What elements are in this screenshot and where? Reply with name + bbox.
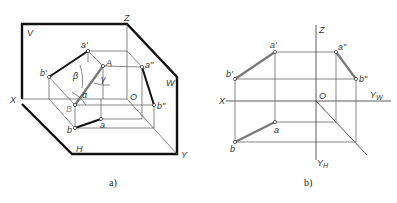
beta-arc xyxy=(80,65,83,88)
label-a: a xyxy=(274,125,279,135)
figure-b: Z X O YW YH a' a" b' b" a b b) xyxy=(218,25,391,189)
label-A: A xyxy=(105,58,112,68)
label-a-dprime: a" xyxy=(145,60,154,70)
segment-ab xyxy=(235,122,275,142)
label-O: O xyxy=(319,91,326,101)
projection-diagram: V Z W X O H Y a' b' A a" B b" a b β γ α … xyxy=(0,0,397,203)
label-b: b xyxy=(67,125,72,135)
label-W: W xyxy=(166,78,176,88)
label-b-dprime: b" xyxy=(359,74,368,84)
label-b: b xyxy=(230,144,235,154)
label-X: X xyxy=(218,96,226,106)
label-H: H xyxy=(76,144,83,154)
label-a-dprime: a" xyxy=(338,42,347,52)
45-degree-line xyxy=(316,101,367,155)
label-alpha: α xyxy=(82,90,88,100)
segment-a''b'' xyxy=(336,52,356,79)
segment-a'b' xyxy=(235,52,275,79)
caption-a: a) xyxy=(109,177,117,189)
label-O: O xyxy=(130,92,137,102)
v-plane-outline xyxy=(22,24,177,154)
segment-a''b'' xyxy=(142,67,154,105)
label-gamma: γ xyxy=(101,74,106,84)
label-b-dprime: b" xyxy=(157,101,166,111)
figure-a: V Z W X O H Y a' b' A a" B b" a b β γ α … xyxy=(9,13,188,189)
label-Yw: YW xyxy=(370,90,384,101)
caption-b: b) xyxy=(304,177,312,189)
y-axis-line xyxy=(127,99,177,154)
label-b-prime: b' xyxy=(40,68,47,78)
label-Z: Z xyxy=(318,25,325,35)
segment-ab xyxy=(75,119,101,128)
label-Y: Y xyxy=(181,150,188,160)
label-Z: Z xyxy=(123,13,130,23)
label-a-prime: a' xyxy=(270,40,277,50)
label-B: B xyxy=(66,104,72,114)
label-beta: β xyxy=(72,71,78,81)
label-a: a xyxy=(100,120,105,130)
label-Yh: YH xyxy=(317,158,329,169)
label-X: X xyxy=(9,95,17,105)
label-a-prime: a' xyxy=(81,40,88,50)
label-b-prime: b' xyxy=(226,69,233,79)
label-V: V xyxy=(27,28,34,38)
